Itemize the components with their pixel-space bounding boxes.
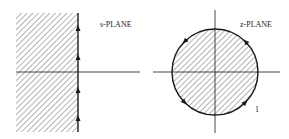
- s-plane-label: s-PLANE: [100, 20, 132, 29]
- s-to-z-plane-mapping-diagram: s-PLANE z-PLANE 1: [0, 0, 289, 139]
- z-plane-panel: z-PLANE 1: [153, 10, 280, 133]
- left-half-plane-shading: [16, 13, 78, 132]
- z-plane-label: z-PLANE: [240, 20, 272, 29]
- s-plane-panel: s-PLANE: [16, 13, 140, 132]
- unit-radius-label: 1: [255, 105, 259, 114]
